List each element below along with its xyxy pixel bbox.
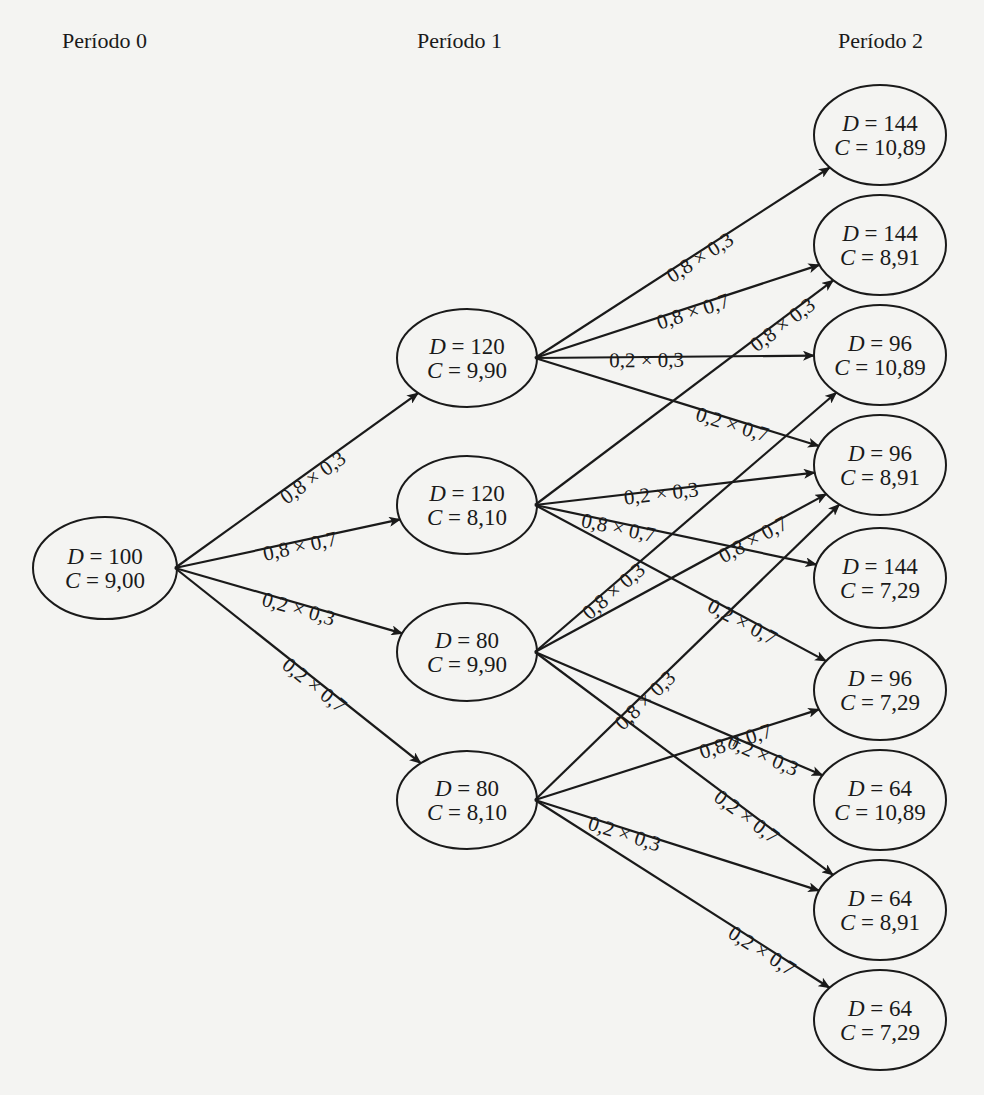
period-1-label: Período 1 [417,28,502,53]
edges-layer: 0,8 × 0,30,8 × 0,70,2 × 0,30,2 × 0,70,8 … [175,167,839,987]
node-cost-value: C = 7,29 [840,690,920,715]
tree-node-n1c: D = 80C = 9,90 [397,603,537,701]
period-2-label: Período 2 [838,28,923,53]
edge-probability-label: 0,2 × 0,7 [709,784,783,848]
edge-probability-label: 0,2 × 0,3 [259,587,338,631]
node-cost-value: C = 7,29 [840,1020,920,1045]
node-demand-value: D = 80 [434,776,499,801]
tree-node-n2g: D = 64C = 10,89 [814,750,946,850]
node-demand-value: D = 96 [847,441,912,466]
edge-probability-label: 0,8 × 0,3 [275,446,350,509]
node-demand-value: D = 96 [847,331,912,356]
node-demand-value: D = 80 [434,628,499,653]
node-demand-value: D = 64 [847,776,913,801]
edge-probability-label: 0,8 × 0,3 [745,293,819,357]
edge-probability-label: 0,2 × 0,3 [585,811,664,857]
edge-probability-label: 0,2 × 0,7 [724,920,800,980]
tree-node-n2a: D = 144C = 10,89 [814,85,946,185]
edge-probability-label: 0,8 × 0,3 [610,665,680,734]
tree-node-n1a: D = 120C = 9,90 [397,309,537,407]
node-cost-value: C = 8,91 [840,245,920,270]
tree-node-n1d: D = 80C = 8,10 [397,751,537,849]
node-cost-value: C = 9,00 [65,568,145,593]
tree-node-n2e: D = 144C = 7,29 [814,528,946,628]
node-cost-value: C = 8,10 [427,800,507,825]
tree-node-n2h: D = 64C = 8,91 [814,860,946,960]
tree-node-n2d: D = 96C = 8,91 [814,415,946,515]
node-cost-value: C = 9,90 [427,652,507,677]
node-demand-value: D = 64 [847,886,913,911]
node-demand-value: D = 120 [428,481,505,506]
edge-probability-label: 0,8 × 0,7 [654,288,733,334]
edge-probability-label: 0,8 × 0,7 [261,527,339,566]
node-cost-value: C = 7,29 [840,578,920,603]
node-demand-value: D = 144 [841,221,918,246]
node-cost-value: C = 9,90 [427,358,507,383]
edge-arrow-n1d-n2h [535,800,819,891]
edge-arrow-n1c-n2c [535,393,836,652]
tree-node-n0: D = 100C = 9,00 [33,517,177,619]
binomial-tree-diagram: Período 0 Período 1 Período 2 0,8 × 0,30… [0,0,984,1095]
node-demand-value: D = 120 [428,334,505,359]
node-demand-value: D = 96 [847,666,912,691]
node-cost-value: C = 8,91 [840,465,920,490]
edge-probability-label: 0,2 × 0,3 [623,477,700,509]
edge-probability-label: 0,2 × 0,7 [693,402,772,447]
edge-probability-label: 0,2 × 0,7 [704,594,781,651]
node-demand-value: D = 100 [66,544,143,569]
period-0-label: Período 0 [62,28,147,53]
nodes-layer: D = 100C = 9,00D = 120C = 9,90D = 120C =… [33,85,946,1070]
tree-node-n2b: D = 144C = 8,91 [814,195,946,295]
node-demand-value: D = 144 [841,111,918,136]
edge-probability-label: 0,8 × 0,7 [579,508,657,547]
node-demand-value: D = 64 [847,996,913,1021]
tree-node-n2c: D = 96C = 10,89 [814,305,946,405]
node-cost-value: C = 10,89 [834,135,926,160]
edge-probability-label: 0,8 × 0,3 [577,557,649,624]
edge-probability-label: 0,8 × 0,7 [714,511,791,568]
edge-probability-label: 0,2 × 0,7 [278,652,352,717]
tree-node-n2f: D = 96C = 7,29 [814,640,946,740]
node-demand-value: D = 144 [841,554,918,579]
node-cost-value: C = 10,89 [834,800,926,825]
node-cost-value: C = 8,91 [840,910,920,935]
node-cost-value: C = 10,89 [834,355,926,380]
edge-probability-label: 0,8 × 0,3 [662,227,738,288]
node-cost-value: C = 8,10 [427,505,507,530]
tree-node-n2i: D = 64C = 7,29 [814,970,946,1070]
edge-probability-label: 0,2 × 0,3 [609,348,684,373]
tree-node-n1b: D = 120C = 8,10 [397,456,537,554]
